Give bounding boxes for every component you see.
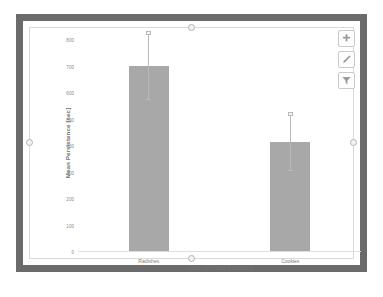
resize-handle-bottom-center[interactable] [188,255,195,262]
chart-toolbar[interactable] [338,30,355,89]
chart-object-inner-panel: Mean Persistence [sec] 01002003004005006… [29,27,354,259]
chart-object-frame[interactable]: Mean Persistence [sec] 01002003004005006… [16,14,367,272]
y-axis-tick-label: 100 [66,223,74,228]
plot-area: RadishesCookies [78,40,361,252]
error-bar-cap-upper [288,112,293,116]
pencil-icon [341,54,352,65]
y-axis-tick-label: 0 [71,250,74,255]
x-axis-baseline [78,251,361,252]
filter-button[interactable] [338,72,355,89]
error-bar [148,33,149,99]
y-axis-tick-label: 700 [66,64,74,69]
resize-handle-top-center[interactable] [188,24,195,31]
edit-button[interactable] [338,51,355,68]
y-axis-tick-label: 600 [66,91,74,96]
error-bar-cap-lower [288,170,293,171]
filter-icon [341,75,352,86]
error-bar-cap-upper [146,31,151,35]
y-axis-tick-label: 800 [66,38,74,43]
resize-handle-middle-left[interactable] [26,139,33,146]
y-axis-tick-label: 200 [66,197,74,202]
y-axis-tick-label: 300 [66,170,74,175]
error-bar [290,114,291,171]
resize-handle-middle-right[interactable] [350,139,357,146]
plus-icon [341,33,352,44]
y-axis-tick-label: 400 [66,144,74,149]
add-button[interactable] [338,30,355,47]
x-axis-title: Type of Food Resisted [78,264,361,271]
y-axis-tick-label: 500 [66,117,74,122]
bar-chart[interactable]: Mean Persistence [sec] 01002003004005006… [30,28,353,258]
error-bar-cap-lower [146,99,151,100]
y-axis-tick-labels: 0100200300400500600700800 [54,40,76,252]
